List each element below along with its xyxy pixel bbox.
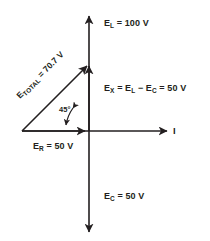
e-x-value: = 50 V bbox=[157, 83, 186, 93]
inductive-voltage-label: EL = 100 V bbox=[104, 18, 149, 28]
capacitive-voltage-label: EC = 50 V bbox=[104, 191, 144, 201]
resistive-voltage-label: ER = 50 V bbox=[33, 141, 73, 151]
e-x-term-c-subscript: C bbox=[152, 87, 157, 94]
e-r-subscript: R bbox=[39, 145, 44, 152]
e-x-term-l-subscript: L bbox=[131, 87, 135, 94]
e-c-subscript: C bbox=[110, 195, 115, 202]
phase-angle-label: 45° bbox=[59, 105, 71, 114]
e-c-value: = 50 V bbox=[115, 191, 144, 201]
e-x-term-l: = E bbox=[115, 83, 132, 93]
e-l-value: = 100 V bbox=[114, 18, 149, 28]
phasor-diagram-figure: EL = 100 V EX = EL − EC = 50 V ER = 50 V… bbox=[0, 0, 210, 241]
e-r-value: = 50 V bbox=[44, 141, 73, 151]
e-x-subscript: X bbox=[110, 87, 114, 94]
e-l-subscript: L bbox=[110, 22, 114, 29]
reactance-voltage-label: EX = EL − EC = 50 V bbox=[104, 83, 186, 93]
e-x-term-c: − E bbox=[135, 83, 152, 93]
current-axis-label: I bbox=[173, 125, 176, 136]
phasor-diagram-svg bbox=[0, 0, 210, 241]
